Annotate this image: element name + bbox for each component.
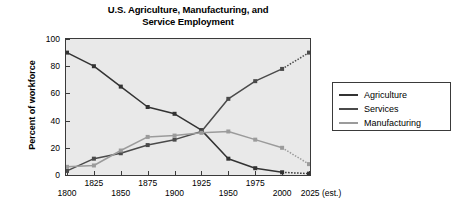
series-line-estimate-services — [282, 53, 309, 69]
data-point-marker — [146, 105, 150, 109]
chart-title: U.S. Agriculture, Manufacturing, and Ser… — [60, 4, 316, 28]
legend-swatch-icon — [339, 108, 358, 110]
legend: AgricultureServicesManufacturing — [332, 82, 451, 131]
data-point-marker — [226, 97, 230, 101]
data-point-marker — [66, 169, 69, 173]
data-point-marker — [253, 166, 257, 170]
legend-swatch-icon — [339, 122, 358, 124]
data-point-marker — [146, 143, 150, 147]
chart-title-line-2: Service Employment — [60, 16, 316, 28]
x-axis-tick-label: 1950 — [219, 189, 238, 198]
x-axis-tick-label: 1925 — [192, 179, 211, 188]
data-point-marker — [66, 51, 69, 55]
legend-item-label: Services — [364, 104, 399, 114]
data-point-marker — [280, 67, 284, 71]
data-point-marker — [307, 162, 310, 166]
y-axis-tick-label: 80 — [34, 62, 60, 70]
data-point-marker — [92, 157, 96, 161]
legend-item-label: Agriculture — [364, 90, 407, 100]
data-point-marker — [173, 138, 177, 142]
data-point-marker — [66, 165, 69, 169]
data-point-marker — [119, 149, 123, 153]
x-axis-tick-label: 1975 — [246, 179, 265, 188]
data-point-marker — [307, 172, 310, 175]
x-axis-tick-label: 1800 — [58, 189, 77, 198]
data-point-marker — [226, 129, 230, 133]
data-point-marker — [226, 157, 230, 161]
y-axis-title: Percent of workforce — [27, 35, 37, 175]
legend-item-services[interactable]: Services — [339, 102, 399, 116]
x-axis-tick-label: 1850 — [111, 189, 130, 198]
data-point-marker — [280, 170, 284, 174]
data-point-marker — [280, 146, 284, 150]
x-axis-tick-label: 2025 (est.) — [301, 189, 342, 198]
legend-item-agriculture[interactable]: Agriculture — [339, 88, 407, 102]
data-point-marker — [146, 135, 150, 139]
data-point-marker — [173, 112, 177, 116]
chart-title-line-1: U.S. Agriculture, Manufacturing, and — [60, 4, 316, 16]
x-axis-tick-label: 2000 — [273, 189, 292, 198]
y-axis-tick-mark — [66, 175, 70, 176]
data-point-marker — [173, 134, 177, 138]
data-point-marker — [199, 131, 203, 135]
legend-item-label: Manufacturing — [364, 118, 421, 128]
legend-swatch-icon — [339, 94, 358, 96]
legend-item-manufacturing[interactable]: Manufacturing — [339, 116, 421, 130]
chart-root: U.S. Agriculture, Manufacturing, and Ser… — [0, 0, 457, 214]
series-line-estimate-manufacturing — [282, 148, 309, 164]
data-point-marker — [253, 79, 257, 83]
series-layer — [66, 39, 310, 175]
y-axis-tick-label: 100 — [34, 35, 60, 43]
plot-area — [65, 38, 311, 176]
series-line-services — [67, 69, 282, 171]
plot-inner — [66, 39, 310, 175]
y-axis-tick-label: 20 — [34, 144, 60, 152]
data-point-marker — [119, 85, 123, 89]
y-axis-tick-label: 40 — [34, 117, 60, 125]
data-point-marker — [92, 64, 96, 68]
x-axis-tick-label: 1900 — [165, 189, 184, 198]
y-axis-tick-label: 60 — [34, 89, 60, 97]
y-axis-tick-label: 0 — [34, 171, 60, 179]
x-axis-tick-label: 1875 — [138, 179, 157, 188]
data-point-marker — [253, 138, 257, 142]
data-point-marker — [92, 163, 96, 167]
series-line-estimate-agriculture — [282, 172, 309, 173]
data-point-marker — [307, 51, 310, 55]
x-axis-tick-label: 1825 — [84, 179, 103, 188]
